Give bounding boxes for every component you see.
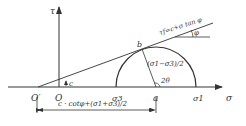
center-a-label: a [153, 93, 158, 103]
mohr-coulomb-diagram: τ σ O′ O σ3 a σ1 b τf=c+σ tan φ φ c (σ1−… [0, 0, 246, 126]
radius-line [142, 49, 156, 87]
cohesion-label: c [69, 80, 73, 88]
distance-label: c · cotφ+(σ1+σ3)/2 [58, 100, 127, 108]
two-theta-label: 2θ [160, 77, 170, 85]
failure-envelope-line [38, 23, 213, 87]
phi-label: φ [194, 29, 199, 37]
radius-label: (σ1−σ3)/2 [147, 60, 184, 68]
tau-label: τ [50, 6, 56, 16]
origin-prime-label: O′ [31, 93, 40, 103]
sigma1-label: σ1 [193, 94, 204, 103]
tangent-b-label: b [137, 40, 142, 49]
sigma-label: σ [226, 93, 233, 103]
